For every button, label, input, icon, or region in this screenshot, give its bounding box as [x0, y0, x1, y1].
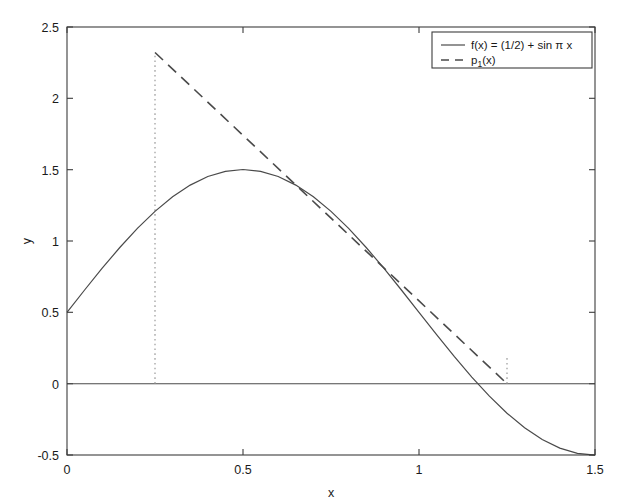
y-tick-label: 2	[52, 92, 59, 106]
legend-label-f: f(x) = (1/2) + sin π x	[471, 39, 572, 51]
y-tick-label: 2.5	[42, 21, 59, 35]
x-tick-label: 1	[416, 463, 423, 477]
y-tick-label: -0.5	[37, 449, 59, 463]
y-tick-labels: 2.5 2 1.5 1 0.5 0 -0.5	[37, 21, 59, 463]
chart-svg: 2.5 2 1.5 1 0.5 0 -0.5 0 0.5 1 1.5 x y	[0, 0, 625, 503]
y-axis-label: y	[20, 237, 34, 244]
x-axis-label: x	[328, 486, 335, 500]
legend: f(x) = (1/2) + sin π x p1(x)	[432, 32, 592, 69]
y-tick-label: 1	[52, 235, 59, 249]
y-tick-label: 0.5	[42, 306, 59, 320]
x-tick-labels: 0 0.5 1 1.5	[64, 463, 604, 477]
x-tick-label: 0.5	[234, 463, 251, 477]
chart-figure: 2.5 2 1.5 1 0.5 0 -0.5 0 0.5 1 1.5 x y	[0, 0, 625, 503]
y-tick-label: 0	[52, 378, 59, 392]
x-tick-label: 0	[64, 463, 71, 477]
x-tick-label: 1.5	[586, 463, 603, 477]
legend-label-p1-tail: (x)	[482, 54, 496, 66]
plot-area-background	[67, 27, 595, 455]
y-tick-label: 1.5	[42, 164, 59, 178]
